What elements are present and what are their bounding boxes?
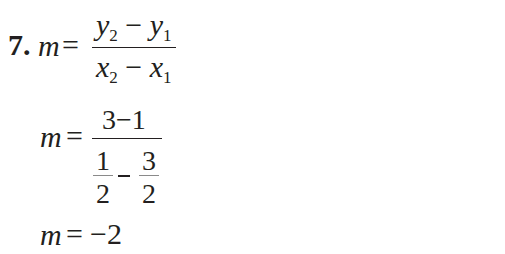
fraction-bar — [139, 175, 159, 176]
subscript: 2 — [109, 26, 118, 45]
subscript: 1 — [163, 26, 172, 45]
slope-formula-numerator: y2 − y1 — [96, 10, 172, 40]
minus-sign — [118, 175, 130, 177]
fraction-bar — [92, 47, 176, 48]
fraction-numerator: 3 — [142, 147, 156, 175]
y-variable: y — [150, 8, 163, 41]
minus-sign: − — [125, 50, 142, 83]
minus-sign: − — [125, 8, 142, 41]
slope-variable: m — [40, 122, 62, 152]
problem-number: 7. — [8, 30, 31, 60]
slope-result: −2 — [90, 219, 122, 249]
subscript: 2 — [109, 68, 118, 87]
x-variable: x — [96, 50, 109, 83]
fraction-bar — [92, 138, 162, 139]
equals-sign: = — [66, 219, 83, 249]
fraction-denominator: 2 — [142, 180, 156, 208]
subscript: 1 — [163, 68, 172, 87]
substituted-numerator: 3−1 — [102, 106, 146, 134]
equals-sign: = — [66, 121, 83, 151]
fraction-numerator: 1 — [96, 147, 110, 175]
fraction-bar — [93, 175, 113, 176]
x-variable: x — [150, 50, 163, 83]
slope-formula-denominator: x2 − x1 — [96, 52, 172, 82]
slope-variable: m — [40, 220, 62, 250]
fraction-denominator: 2 — [96, 180, 110, 208]
equals-sign: = — [62, 30, 79, 60]
slope-variable: m — [38, 31, 60, 61]
y-variable: y — [96, 8, 109, 41]
